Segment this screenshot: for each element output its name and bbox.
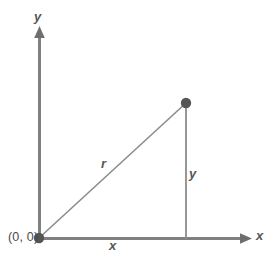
x-axis-arrowhead [240,233,252,244]
x-axis-label: x [256,229,263,242]
hypotenuse-line [39,103,186,238]
y-axis-arrowhead [34,26,45,38]
vertical-leg-label-y: y [189,167,196,180]
hypotenuse-label-r: r [101,157,106,170]
coordinate-triangle-diagram [0,0,274,256]
origin-label: (0, 0) [8,231,38,244]
plotted-point-dot [181,98,191,108]
y-axis-label: y [34,10,41,23]
horizontal-leg-label-x: x [109,239,116,252]
